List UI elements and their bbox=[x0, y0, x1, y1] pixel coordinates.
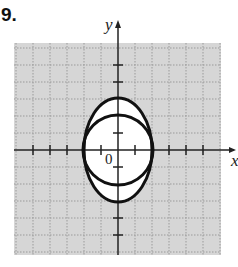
y-axis-label: y bbox=[103, 15, 113, 34]
x-axis-label: x bbox=[230, 151, 238, 170]
graph-figure: 9. bbox=[0, 0, 238, 267]
coordinate-plane: y x 0 bbox=[0, 0, 238, 267]
y-axis-arrow-icon bbox=[115, 20, 121, 28]
origin-label: 0 bbox=[105, 151, 113, 167]
